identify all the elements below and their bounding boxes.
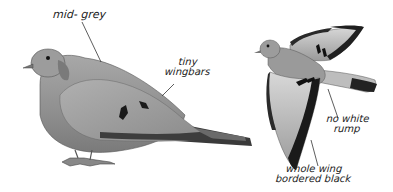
leader-line-mid-grey xyxy=(82,22,101,62)
label-mid-grey: mid- grey xyxy=(53,10,107,20)
label-whole-wing-bordered-black: whole wing bordered black xyxy=(275,164,352,184)
label-tiny-wingbars: tiny wingbars xyxy=(164,57,211,77)
flying-dove xyxy=(254,26,377,171)
label-no-white-rump: no white rump xyxy=(325,114,369,134)
leader-line-wingbars xyxy=(162,84,174,96)
perched-dove xyxy=(23,49,252,166)
illustration-canvas: mid- grey tiny wingbars no white rump wh… xyxy=(0,0,393,192)
